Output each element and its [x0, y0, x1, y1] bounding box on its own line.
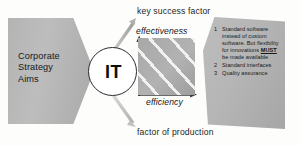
list-item: 2Standard interfaces [214, 62, 282, 69]
list-item-text: Quality assurance [222, 70, 268, 77]
corporate-strategy-shape: Corporate Strategy Aims [8, 18, 94, 124]
chart-fill [138, 38, 195, 95]
key-success-factor-label: key success factor [137, 6, 210, 16]
list-item-text: Standard software instead of custom soft… [222, 26, 282, 61]
arrow-down-right-icon [113, 95, 136, 127]
list-item-text: Standard interfaces [222, 62, 271, 69]
chart-x-axis-label: efficiency [146, 97, 183, 107]
effectiveness-efficiency-chart [138, 38, 195, 95]
corporate-strategy-label: Corporate Strategy Aims [18, 51, 80, 85]
plain-text: be made available [222, 54, 268, 60]
emphasis-text: MUST [261, 47, 277, 53]
strategy-line-2: Strategy [18, 62, 80, 73]
list-item-number: 2 [214, 62, 222, 69]
requirements-shape: 1Standard software instead of custom sof… [203, 17, 285, 129]
diagram-canvas: Corporate Strategy Aims IT key success f… [0, 0, 300, 146]
chart-y-axis-label: effectiveness [136, 26, 187, 36]
strategy-line-1: Corporate [18, 51, 80, 62]
it-node: IT [88, 47, 137, 96]
strategy-line-3: Aims [18, 74, 80, 85]
it-node-label: IT [89, 48, 138, 97]
requirements-list: 1Standard software instead of custom sof… [214, 26, 282, 77]
list-item-number: 1 [214, 26, 222, 33]
list-item: 1Standard software instead of custom sof… [214, 26, 282, 61]
list-item: 3Quality assurance [214, 70, 282, 77]
list-item-number: 3 [214, 70, 222, 77]
plain-text: Standard interfaces [222, 62, 271, 68]
plain-text: Quality assurance [222, 70, 268, 76]
